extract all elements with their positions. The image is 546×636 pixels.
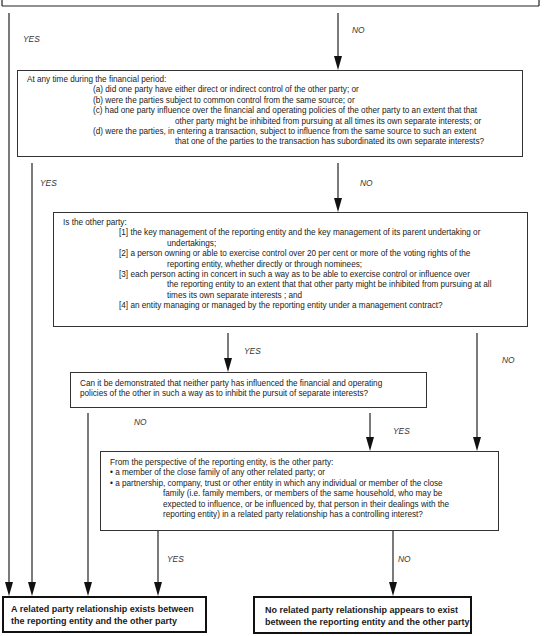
q1-item-d-cont: that one of the parties to the transacti… — [27, 137, 522, 147]
label-no-q4: NO — [398, 554, 411, 564]
q4-bullet-2-cont2: expected to influence, or be influenced … — [110, 500, 498, 510]
label-no-top: NO — [352, 25, 365, 35]
q1-item-c: (c) had one party influence over the fin… — [27, 106, 522, 116]
label-yes-q2: YES — [244, 346, 261, 356]
label-no-q3: NO — [134, 417, 147, 427]
q1-item-a: (a) did one party have either direct or … — [27, 85, 522, 95]
q2-item-3-cont2: times its own separate interests ; and — [63, 291, 527, 301]
label-yes-q1: YES — [40, 178, 57, 188]
q1-item-b: (b) were the parties subject to common c… — [27, 96, 522, 106]
q4-intro: From the perspective of the reporting en… — [110, 458, 498, 468]
q3-line-2: policies of the other in such a way as t… — [80, 389, 426, 399]
q2-item-2: [2] a person owning or able to exercise … — [63, 249, 527, 259]
q2-item-1-cont: undertakings; — [63, 239, 527, 249]
outcome-yes-line-1: A related party relationship exists betw… — [11, 603, 205, 615]
label-no-q1: NO — [360, 178, 373, 188]
q1-item-d: (d) were the parties, in entering a tran… — [27, 127, 522, 137]
q2-item-2-cont: reporting entity, whether directly or th… — [63, 260, 527, 270]
q3-line-1: Can it be demonstrated that neither part… — [80, 379, 426, 389]
q1-item-c-cont: other party might be inhibited from purs… — [27, 117, 522, 127]
q4-bullet-2-cont1: family (i.e. family members, or members … — [110, 489, 498, 499]
outcome-yes-line-2: the reporting entity and the other party — [11, 615, 205, 627]
q4-bullet-2-cont3: reporting entity) in a related party rel… — [110, 510, 498, 520]
decision-box-control: At any time during the financial period:… — [17, 70, 523, 157]
flowchart-canvas: YES NO YES NO YES NO NO YES YES NO At an… — [0, 0, 546, 636]
outcome-no-related-party: No related party relationship appears to… — [253, 596, 472, 634]
q2-item-3-cont1: the reporting entity to an extent that t… — [63, 280, 527, 290]
q2-item-3: [3] each person acting in concert in suc… — [63, 270, 527, 280]
label-no-q2: NO — [502, 355, 515, 365]
label-yes-q4: YES — [167, 554, 184, 564]
q1-intro: At any time during the financial period: — [27, 75, 522, 85]
decision-box-key-parties: Is the other party: [1] the key manageme… — [53, 212, 528, 327]
q4-bullet-2: • a partnership, company, trust or other… — [110, 479, 498, 489]
q2-item-1: [1] the key management of the reporting … — [63, 228, 527, 238]
decision-box-demonstrate-independence: Can it be demonstrated that neither part… — [70, 372, 427, 408]
decision-box-close-family: From the perspective of the reporting en… — [100, 451, 499, 531]
q2-intro: Is the other party: — [63, 218, 527, 228]
outcome-no-line-1: No related party relationship appears to… — [265, 604, 470, 616]
label-yes-top: YES — [23, 34, 40, 44]
q2-item-4: [4] an entity managing or managed by the… — [63, 301, 527, 311]
outcome-no-line-2: between the reporting entity and the oth… — [265, 616, 470, 628]
label-yes-q3: YES — [393, 426, 410, 436]
outcome-related-party-exists: A related party relationship exists betw… — [2, 596, 207, 633]
q4-bullet-1: • a member of the close family of any ot… — [110, 468, 498, 478]
